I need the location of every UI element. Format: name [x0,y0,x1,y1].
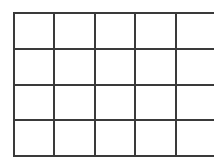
grid-row [14,120,214,156]
grid-cell[interactable] [14,120,54,156]
grid-canvas [0,0,214,164]
grid-cell[interactable] [95,13,135,49]
grid-body [14,13,214,156]
grid-cell[interactable] [14,13,54,49]
grid-cell[interactable] [54,49,94,85]
grid-cell[interactable] [135,85,175,121]
grid-cell[interactable] [95,120,135,156]
grid-cell[interactable] [176,13,214,49]
grid-cell[interactable] [95,85,135,121]
grid-cell[interactable] [176,49,214,85]
grid-cell[interactable] [135,49,175,85]
grid-cell[interactable] [14,85,54,121]
grid-cell[interactable] [176,85,214,121]
grid-row [14,13,214,49]
grid-cell[interactable] [135,13,175,49]
grid-cell[interactable] [14,49,54,85]
grid-cell[interactable] [54,120,94,156]
grid-cell[interactable] [54,13,94,49]
grid-cell[interactable] [176,120,214,156]
grid-cell[interactable] [95,49,135,85]
grid-row [14,49,214,85]
grid-cell[interactable] [135,120,175,156]
grid-cell[interactable] [54,85,94,121]
grid-row [14,85,214,121]
grid-table [13,12,214,157]
